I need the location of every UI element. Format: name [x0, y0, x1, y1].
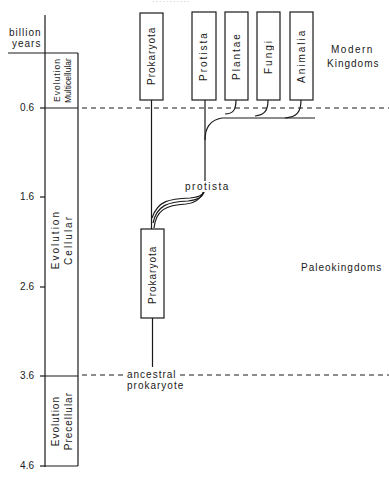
tick-label-0.6: 0.6 [0, 102, 34, 113]
axis-title-line1: billion [9, 27, 42, 38]
paleokingdoms-label: Paleokingdoms [301, 262, 382, 273]
label-prokaryota-paleo: Prokaryota [147, 240, 158, 310]
modern-kingdoms-line2: Kingdoms [327, 58, 379, 69]
era-precellular: Precellular Evolution [48, 380, 76, 462]
era-cellular: Cellular Evolution [48, 170, 76, 310]
ancestral-label-line2: prokaryote [127, 380, 184, 391]
protista-branch-label: protista [185, 181, 230, 192]
tick-label-1.6: 1.6 [0, 191, 34, 202]
tick-label-3.6: 3.6 [0, 370, 34, 381]
era-multicellular: Multicellular Evolution [48, 55, 76, 106]
modern-kingdoms-line1: Modern [331, 44, 374, 55]
label-prokaryota-modern: Prokaryota [146, 20, 157, 92]
tick-label-4.6: 4.6 [0, 460, 34, 471]
axis-title-line2: years [12, 38, 41, 49]
label-fungi: Fungi [263, 20, 274, 92]
label-plantae: Plantae [231, 20, 242, 92]
tick-label-2.6: 2.6 [0, 281, 34, 292]
ancestral-label-line1: ancestral [127, 369, 177, 380]
label-protista: Protista [198, 20, 209, 92]
label-animalia: Animalia [296, 20, 307, 92]
clipped-caption: ........... [152, 0, 191, 4]
